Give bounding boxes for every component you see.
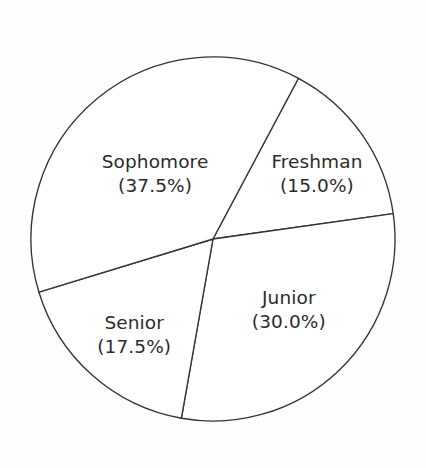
slice-label-name: Senior (97, 311, 171, 335)
slice-label-junior: Junior (30.0%) (252, 286, 326, 334)
slice-label-freshman: Freshman (15.0%) (271, 150, 362, 198)
slice-label-sophomore: Sophomore (37.5%) (102, 150, 209, 198)
slice-label-name: Sophomore (102, 150, 209, 174)
slice-label-percent: (30.0%) (252, 310, 326, 334)
slice-label-percent: (15.0%) (271, 174, 362, 198)
slice-label-senior: Senior (17.5%) (97, 311, 171, 359)
slice-label-percent: (17.5%) (97, 335, 171, 359)
slice-label-name: Junior (252, 286, 326, 310)
pie-chart-svg (0, 0, 426, 468)
pie-slices-group (31, 57, 395, 421)
pie-chart-figure: Sophomore (37.5%) Freshman (15.0%) Junio… (0, 0, 426, 468)
slice-label-percent: (37.5%) (102, 174, 209, 198)
slice-label-name: Freshman (271, 150, 362, 174)
